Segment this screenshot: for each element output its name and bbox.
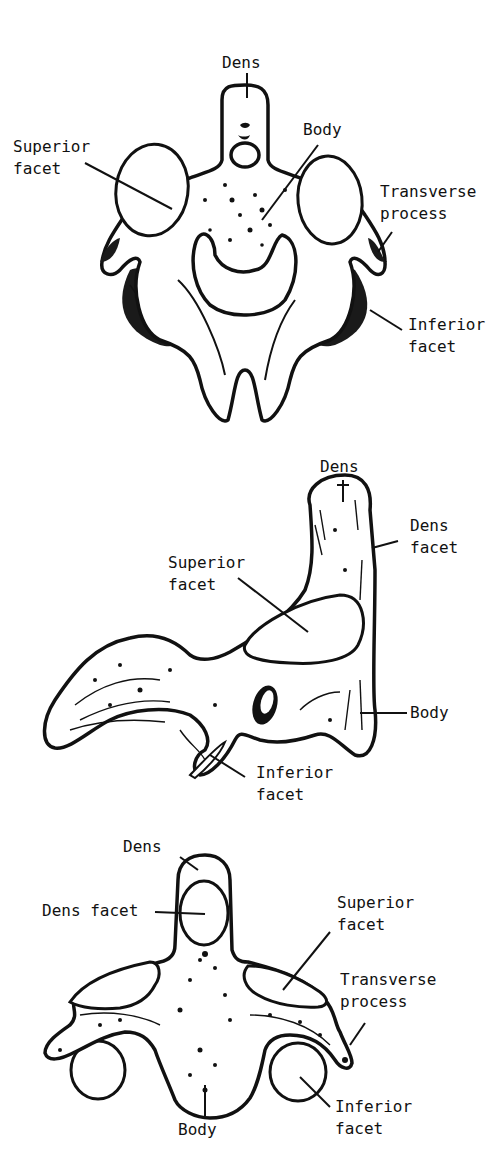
- label-body: Body: [303, 119, 342, 141]
- label-inferior-facet: Inferior facet: [335, 1096, 412, 1140]
- label-superior-facet: Superior facet: [337, 892, 414, 936]
- label-dens: Dens: [320, 456, 359, 478]
- figure-axis-bottom-view: Dens Dens facet Superior facet Transvers…: [0, 810, 489, 1167]
- label-body: Body: [178, 1119, 217, 1141]
- label-inferior-facet: Inferior facet: [256, 762, 333, 806]
- label-inferior-facet: Inferior facet: [408, 314, 485, 358]
- label-superior-facet: Superior facet: [168, 552, 245, 596]
- figure-axis-top-view: Dens Superior facet Body Transverse proc…: [0, 0, 489, 430]
- label-dens-facet: Dens facet: [42, 900, 138, 922]
- label-dens: Dens: [222, 52, 261, 74]
- label-dens: Dens: [123, 836, 162, 858]
- label-superior-facet: Superior facet: [13, 136, 90, 180]
- axis-lateral-view-illustration: [0, 430, 489, 810]
- label-transverse-process: Transverse process: [340, 969, 436, 1013]
- label-transverse-process: Transverse process: [380, 181, 476, 225]
- figure-axis-lateral-view: Dens Dens facet Superior facet Body Infe…: [0, 430, 489, 810]
- label-dens-facet: Dens facet: [410, 515, 458, 559]
- label-body: Body: [410, 702, 449, 724]
